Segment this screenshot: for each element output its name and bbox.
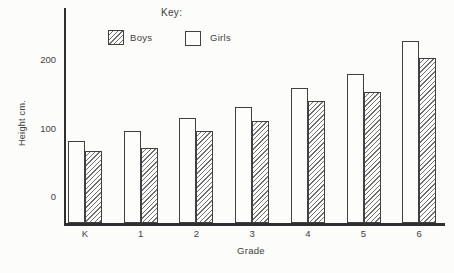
bar-boys-grade-K [85,151,102,223]
legend-swatch-girls [185,31,201,46]
legend-label-boys: Boys [130,32,152,43]
y-tick-100: 100 [24,123,56,134]
x-tick-grade-4: 4 [293,228,323,239]
bar-boys-grade-1 [141,148,158,223]
bar-boys-grade-2 [196,131,213,223]
height-by-grade-bar-chart: Key: BoysGirls Height cm. 0100200 K12345… [0,0,454,273]
legend-label-girls: Girls [210,32,231,43]
x-axis-label: Grade [237,245,265,256]
bar-girls-grade-2 [179,118,196,223]
bar-girls-grade-6 [402,41,419,223]
legend-swatch-boys [108,30,124,45]
x-tick-grade-3: 3 [237,228,267,239]
y-axis-line [64,8,66,226]
bar-girls-grade-3 [235,107,252,223]
bar-girls-grade-5 [347,74,364,223]
bar-girls-grade-1 [124,131,141,223]
x-axis-line [64,223,445,226]
x-tick-grade-K: K [70,228,100,239]
bar-girls-grade-K [68,141,85,223]
x-tick-grade-5: 5 [349,228,379,239]
x-tick-grade-2: 2 [181,228,211,239]
x-tick-grade-1: 1 [126,228,156,239]
x-tick-grade-6: 6 [404,228,434,239]
bar-girls-grade-4 [291,88,308,223]
legend-title: Key: [161,7,182,18]
bar-boys-grade-4 [308,101,325,223]
bar-boys-grade-5 [364,92,381,223]
y-tick-200: 200 [24,54,56,65]
bar-boys-grade-6 [419,58,436,223]
y-tick-0: 0 [24,191,56,202]
bar-boys-grade-3 [252,121,269,223]
